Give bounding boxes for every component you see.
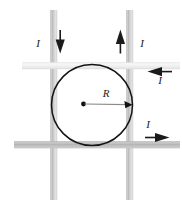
diagram-canvas: R I I I I <box>0 0 182 209</box>
arrow-right-up-icon <box>116 30 125 54</box>
left-vertical-current-label: I <box>35 37 41 49</box>
arrow-bottom-right-icon <box>145 133 170 142</box>
right-vertical-current-label: I <box>139 37 145 49</box>
physics-diagram-figure: R I I I I <box>0 0 182 209</box>
radius-label: R <box>102 87 110 99</box>
radius-indicator <box>85 101 133 108</box>
top-horizontal-current-label: I <box>157 74 163 86</box>
bottom-horizontal-current-label: I <box>145 118 151 130</box>
